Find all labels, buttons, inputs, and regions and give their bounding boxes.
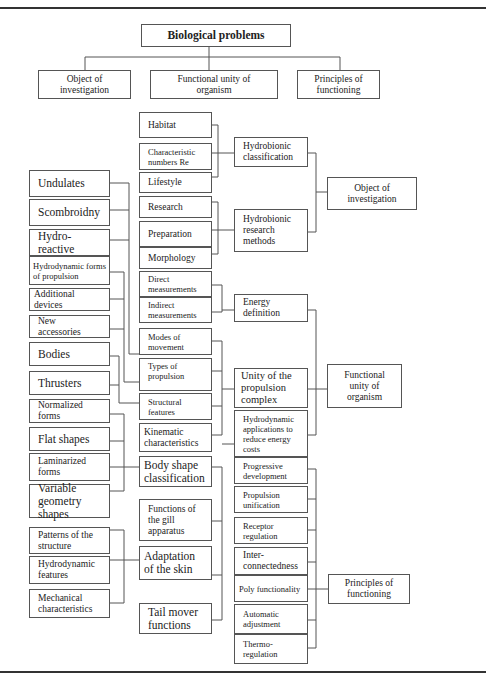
right-hydrobionic-classification: Hydrobionic classification — [234, 137, 308, 167]
top-category-functional: Functional unity of organism — [150, 70, 278, 99]
right-inter-connectedness: Inter-connectedness — [234, 547, 308, 575]
outcome-functional-unity: Functional unity of organism — [327, 364, 402, 408]
mid-habitat: Habitat — [139, 112, 212, 138]
left-normalized-forms: Normalized forms — [29, 399, 110, 423]
mid-tail-mover-functions: Tail mover functions — [139, 603, 212, 634]
mid-kinematic-characteristics: Kinematic characteristics — [139, 423, 212, 452]
left-laminarized-forms: Laminarized forms — [29, 453, 110, 481]
mid-lifestyle: Lifestyle — [139, 172, 212, 193]
mid-indirect-measurements: Indirect measurements — [139, 297, 212, 323]
left-scombroidny: Scombroidny — [29, 199, 110, 226]
mid-research: Research — [139, 196, 212, 218]
left-undulates: Undulates — [29, 170, 110, 197]
mid-characteristic-numbers: Characteristic numbers Re — [139, 143, 212, 170]
mid-modes-of-movement: Modes of movement — [139, 328, 212, 355]
right-progressive-development: Progressive development — [234, 457, 308, 484]
top-category-principles: Principles of functioning — [297, 70, 380, 99]
mid-gill-apparatus: Functions of the gill apparatus — [139, 499, 212, 541]
right-hydrodynamic-applications: Hydrodynamic applications to reduce ener… — [234, 410, 308, 457]
left-variable-geometry: Variable geometry shapes — [29, 484, 110, 518]
right-poly-functionality: Poly functionality — [234, 575, 308, 602]
right-receptor-regulation: Receptor regulation — [234, 517, 308, 544]
outcome-principles-functioning: Principles of functioning — [328, 574, 410, 604]
right-unity-propulsion-complex: Unity of the propulsion complex — [234, 368, 308, 408]
right-energy-definition: Energy definition — [234, 294, 308, 322]
mid-structural-features: Structural features — [139, 393, 212, 420]
left-hydrodynamic-forms: Hydrodynamic forms of propulsion — [29, 256, 110, 285]
right-hydrobionic-research-methods: Hydrobionic research methods — [234, 209, 308, 252]
left-hydro-reactive: Hydro-reactive — [29, 229, 110, 256]
mid-morphology: Morphology — [139, 247, 212, 269]
mid-types-of-propulsion: Types of propulsion — [139, 358, 212, 391]
left-patterns-structure: Patterns of the structure — [29, 527, 110, 554]
left-thrusters: Thrusters — [29, 371, 110, 395]
left-hydrodynamic-features: Hydrodynamic features — [29, 556, 110, 584]
right-automatic-adjustment: Automatic adjustment — [234, 604, 308, 634]
root-box: Biological problems — [141, 24, 291, 47]
left-mechanical-characteristics: Mechanical characteristics — [29, 589, 110, 618]
left-new-accessories: New accessories — [29, 315, 110, 338]
top-category-object: Object of investigation — [38, 70, 131, 99]
outcome-object-investigation: Object of investigation — [327, 177, 417, 210]
mid-preparation: Preparation — [139, 221, 212, 247]
left-additional-devices: Additional devices — [29, 288, 110, 311]
right-thermo-regulation: Thermo-regulation — [234, 634, 308, 664]
left-bodies: Bodies — [29, 342, 110, 366]
right-propulsion-unification: Propulsion unification — [234, 486, 308, 513]
left-flat-shapes: Flat shapes — [29, 427, 110, 451]
mid-adaptation-skin: Adaptation of the skin — [139, 546, 212, 580]
mid-body-shape-classification: Body shape classification — [139, 456, 212, 487]
mid-direct-measurements: Direct measurements — [139, 271, 212, 297]
